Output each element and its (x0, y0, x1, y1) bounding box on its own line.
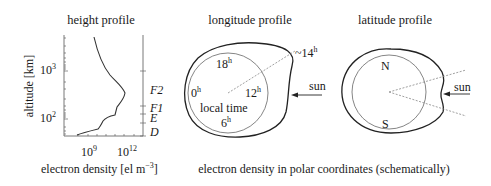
hour-18: 18h (216, 56, 232, 71)
latitude-sun-arrowhead-icon (443, 92, 450, 97)
longitude-profile-title: longitude profile (208, 13, 292, 27)
layer-d: D (149, 125, 159, 139)
peak-time-label: ~14h (295, 45, 318, 60)
y-axis-label: altitude [km] (22, 55, 36, 117)
x-tick-1e12: 1012 (117, 144, 137, 159)
y-tick-100: 102 (40, 110, 56, 125)
longitude-sun-arrowhead-icon (291, 93, 298, 98)
peak-direction-line (228, 51, 295, 93)
layer-e: E (149, 111, 158, 125)
sun-cone-lower-line (389, 92, 466, 116)
density-curve (77, 37, 125, 135)
height-profile-panel: height profile (22, 13, 163, 176)
longitude-sun-label: sun (309, 79, 326, 93)
hour-0: 0h (191, 85, 201, 100)
latitude-profile-panel: latitude profile N S sun (342, 13, 471, 133)
latitude-sun-label: sun (454, 80, 471, 94)
x-axis-label: electron density [el m−3] (41, 161, 158, 176)
x-tick-1e9: 109 (81, 144, 97, 159)
south-label: S (382, 117, 389, 131)
local-time-label: local time (200, 101, 248, 115)
north-label: N (381, 59, 390, 73)
y-tick-1000: 103 (40, 62, 56, 77)
caption: electron density in polar coordinates (s… (198, 162, 450, 176)
height-profile-title: height profile (67, 13, 135, 27)
latitude-profile-title: latitude profile (358, 13, 432, 27)
longitude-profile-panel: longitude profile 18h 0h 12h 6h local ti… (185, 13, 326, 137)
layer-f2: F2 (149, 83, 163, 97)
y-axis-ticks (64, 38, 68, 134)
ionosphere-diagram: height profile (0, 0, 491, 186)
hour-6: 6h (221, 115, 231, 130)
hour-12: 12h (245, 85, 261, 100)
